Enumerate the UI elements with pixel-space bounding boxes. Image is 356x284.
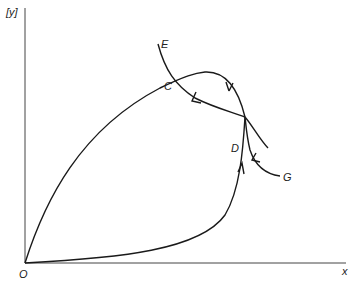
point-g-label: G <box>283 171 292 183</box>
curve-separatrix-g <box>245 117 280 176</box>
x-axis-label: x <box>341 265 348 277</box>
arrow-toward-c-icon <box>192 92 201 103</box>
arrow-toward-d-icon <box>252 153 260 162</box>
curve-upper-loop <box>25 72 245 263</box>
y-axis-label: [y] <box>5 6 19 18</box>
phase-diagram: [y] x O E C D G <box>0 0 356 284</box>
point-d-label: D <box>231 142 239 154</box>
origin-label: O <box>19 268 28 280</box>
point-c-label: C <box>164 80 172 92</box>
curve-separatrix-e <box>158 44 268 148</box>
curve-lower-loop <box>25 117 245 263</box>
point-e-label: E <box>161 38 169 50</box>
